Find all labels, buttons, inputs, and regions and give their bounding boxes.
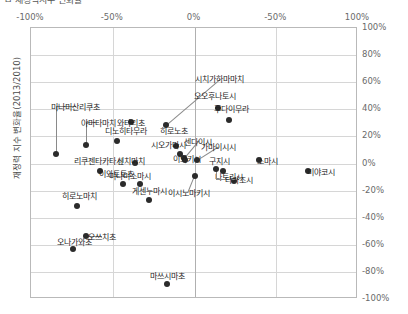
- scatter-point[interactable]: [114, 138, 120, 144]
- scatter-point[interactable]: [74, 203, 80, 209]
- scatter-point-label: 오쓰치초: [88, 230, 116, 241]
- x-axis-tick-label: 0%: [187, 12, 201, 22]
- y-axis-tick-label: -60%: [362, 239, 384, 249]
- scatter-point[interactable]: [83, 142, 89, 148]
- cut-title: ㅁ 재정력지수 변화율: [4, 0, 82, 6]
- scatter-point-label: 후다이무라: [214, 103, 249, 114]
- y-axis-title: 재정력 지수 변화율(2013/2010): [10, 48, 22, 188]
- scatter-point-label: 미야코시: [307, 165, 335, 176]
- scatter-point-label: 미나미산리쿠초: [51, 100, 100, 111]
- scatter-point-label: 소마시: [257, 154, 278, 165]
- y-axis-tick-label: 40%: [362, 103, 381, 113]
- y-axis-tick-label: -100%: [362, 293, 389, 303]
- y-axis-tick-label: 60%: [362, 76, 381, 86]
- x-axis-tick-label: -100%: [16, 12, 43, 22]
- y-axis-tick-label: 100%: [362, 22, 386, 32]
- scatter-chart: ㅁ 재정력지수 변화율 재정력 지수 변화율(2013/2010) -100%-…: [0, 0, 408, 314]
- scatter-point-label: 리쿠젠타카타시: [74, 154, 123, 165]
- scatter-point-label: 디노히타무라: [105, 124, 147, 135]
- y-axis-tick-label: 20%: [362, 130, 381, 140]
- scatter-point-label: 시치가하마마치: [195, 73, 244, 84]
- scatter-point[interactable]: [213, 166, 219, 172]
- scatter-point-label: 타가조시: [225, 173, 253, 184]
- gridline-horizontal: [31, 218, 356, 219]
- y-axis-tick-label: 0%: [362, 158, 376, 168]
- scatter-point-label: 오오후나토시: [194, 89, 236, 100]
- scatter-point-label: 시오가마시: [151, 138, 186, 149]
- y-axis-tick-label: 80%: [362, 49, 381, 59]
- x-axis-tick-label: -50%: [101, 12, 123, 22]
- scatter-point[interactable]: [226, 117, 232, 123]
- x-axis-tick-label: 100%: [345, 12, 369, 22]
- scatter-point-label: 오나가와초: [57, 236, 92, 247]
- scatter-point-label: 이시노마키시: [168, 187, 210, 198]
- y-axis-tick-label: -40%: [362, 212, 384, 222]
- gridline-horizontal: [31, 55, 356, 56]
- cut-title-strip: ㅁ 재정력지수 변화율: [0, 0, 408, 8]
- scatter-point[interactable]: [192, 173, 198, 179]
- scatter-point-label: 히로노마치: [62, 190, 97, 201]
- x-axis-tick-label: -50%: [264, 12, 286, 22]
- gridline-horizontal: [31, 82, 356, 83]
- scatter-point[interactable]: [53, 151, 59, 157]
- scatter-point-label: 가마이시시: [201, 141, 236, 152]
- gridline-horizontal: [31, 272, 356, 273]
- scatter-point[interactable]: [146, 197, 152, 203]
- y-axis-tick-label: -80%: [362, 266, 384, 276]
- scatter-point[interactable]: [120, 181, 126, 187]
- scatter-point-label: 마쓰시마초: [150, 269, 185, 280]
- scatter-point[interactable]: [70, 246, 76, 252]
- label-leader-line: [56, 106, 57, 155]
- scatter-point-label: 이와토토초: [99, 168, 134, 179]
- scatter-point[interactable]: [164, 281, 170, 287]
- y-axis-tick-label: -20%: [362, 185, 384, 195]
- scatter-point-label: 게센누마시: [132, 184, 167, 195]
- scatter-point[interactable]: [194, 157, 200, 163]
- scatter-point[interactable]: [163, 122, 169, 128]
- scatter-point-label: 구지시: [209, 154, 230, 165]
